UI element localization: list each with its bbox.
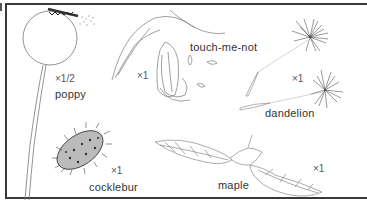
dandelion-scale: ×1 — [292, 73, 303, 84]
dandelion-drawing — [240, 19, 343, 110]
cocklebur-scale: ×1 — [111, 165, 122, 176]
dandelion-label: dandelion — [265, 107, 315, 119]
maple-label: maple — [218, 179, 249, 191]
touch-me-not-label: touch-me-not — [190, 41, 257, 53]
poppy-scale: ×1/2 — [55, 73, 75, 84]
poppy-drawing — [23, 9, 95, 200]
cocklebur-drawing — [50, 122, 112, 177]
cocklebur-label: cocklebur — [89, 181, 138, 193]
poppy-label: poppy — [55, 88, 86, 100]
maple-scale: ×1 — [313, 163, 324, 174]
touch-me-not-scale: ×1 — [137, 70, 148, 81]
touch-me-not-drawing — [112, 10, 225, 101]
